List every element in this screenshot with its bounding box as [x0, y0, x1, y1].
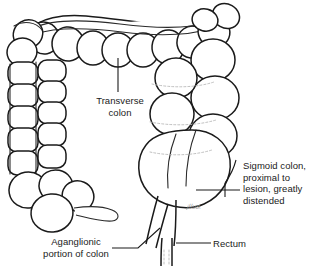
clipped-edge-text: e [0, 228, 8, 240]
rectum [161, 238, 172, 266]
sigmoid-colon [139, 39, 239, 208]
label-transverse-colon: Transverse colon [85, 95, 155, 118]
appendix [74, 207, 118, 221]
colon-illustration: .seg { fill: #ffffff; stroke: #1a1a1a; s… [0, 0, 324, 274]
artist-signature: 𝑖𝑙𝑙𝑢𝑠. [186, 202, 201, 211]
label-sigmoid-colon: Sigmoid colon, proximal to lesion, great… [243, 160, 323, 206]
label-rectum: Rectum [213, 238, 263, 250]
ascending-colon [8, 60, 66, 176]
cecum [6, 167, 99, 234]
label-aganglionic-portion: Aganglionic portion of colon [26, 236, 126, 259]
